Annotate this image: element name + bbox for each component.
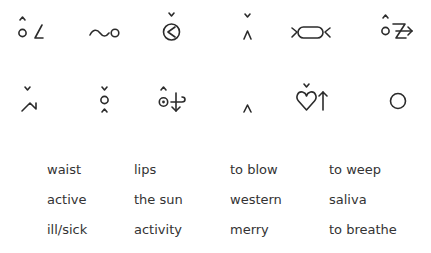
the-sun-symbol bbox=[368, 8, 428, 54]
word-western: western bbox=[230, 192, 282, 208]
to-weep-symbol bbox=[218, 8, 278, 54]
word-ill-sick: ill/sick bbox=[47, 222, 87, 238]
western-symbol bbox=[8, 78, 68, 124]
word-to-blow: to blow bbox=[230, 162, 278, 178]
word-active: active bbox=[47, 192, 87, 208]
saliva-symbol bbox=[75, 78, 135, 124]
word-merry: merry bbox=[230, 222, 269, 238]
word-saliva: saliva bbox=[329, 192, 367, 208]
waist-symbol bbox=[8, 12, 68, 58]
word-the-sun: the sun bbox=[134, 192, 183, 208]
word-to-breathe: to breathe bbox=[329, 222, 397, 238]
word-activity: activity bbox=[134, 222, 182, 238]
lips-symbol bbox=[80, 12, 140, 58]
ill-sick-symbol bbox=[146, 78, 206, 124]
word-lips: lips bbox=[134, 162, 156, 178]
to-breathe-symbol bbox=[368, 78, 428, 124]
active-symbol bbox=[288, 12, 348, 58]
word-waist: waist bbox=[47, 162, 81, 178]
to-blow-symbol bbox=[146, 8, 206, 54]
activity-symbol bbox=[218, 78, 278, 124]
merry-symbol bbox=[288, 78, 348, 124]
word-to-weep: to weep bbox=[329, 162, 381, 178]
